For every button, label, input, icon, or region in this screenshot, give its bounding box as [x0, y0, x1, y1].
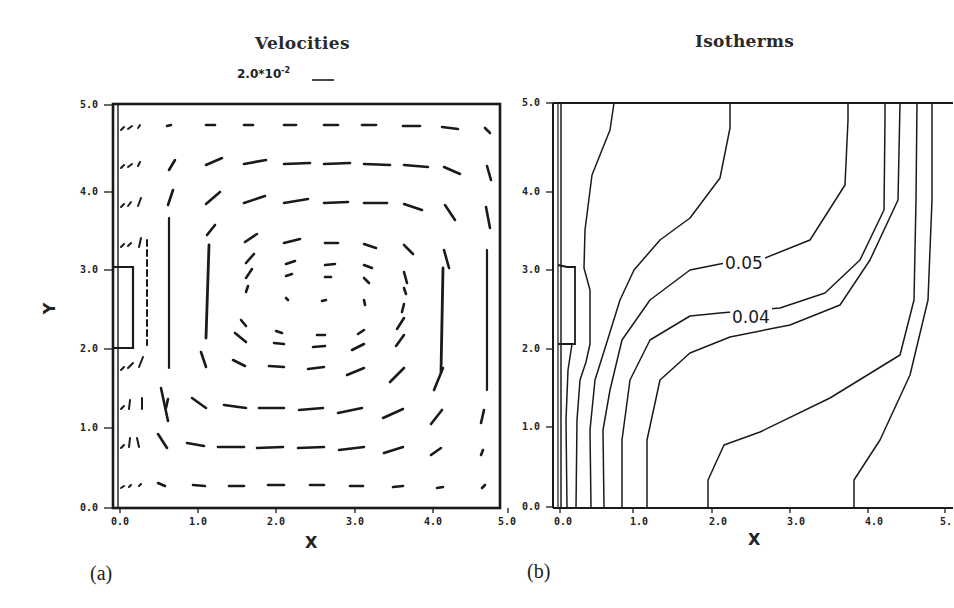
left-ytick-5: 5.0 — [80, 99, 98, 110]
right-ytick-1: 1.0 — [522, 421, 540, 432]
left-ytick-4: 4.0 — [80, 186, 98, 197]
right-ytick-0: 0.0 — [522, 501, 540, 512]
panel-label-b: (b) — [527, 560, 550, 583]
velocity-vectors — [121, 125, 491, 488]
contour-label-005: 0.05 — [723, 253, 765, 273]
left-xtick-1: 1.0 — [189, 516, 207, 527]
isotherm-contours — [561, 103, 940, 508]
contour-label-004: 0.04 — [730, 307, 772, 327]
left-xtick-3: 3.0 — [346, 516, 364, 527]
left-xtick-2: 2.0 — [267, 516, 285, 527]
right-xtick-3: 3.0 — [787, 516, 805, 527]
right-xtick-1: 1.0 — [630, 516, 648, 527]
left-ytick-3: 3.0 — [80, 264, 98, 275]
left-ylabel: Y — [40, 303, 59, 315]
left-xlabel: X — [305, 533, 317, 552]
left-xtick-4: 4.0 — [424, 516, 442, 527]
right-xlabel: X — [748, 530, 760, 549]
right-ytick-2: 2.0 — [522, 343, 540, 354]
right-ytick-3: 3.0 — [522, 264, 540, 275]
left-xtick-0: 0.0 — [111, 516, 129, 527]
right-ytick-4: 4.0 — [522, 186, 540, 197]
plots-canvas — [0, 0, 954, 608]
right-xtick-0: 0.0 — [554, 516, 572, 527]
left-ytick-2: 2.0 — [80, 343, 98, 354]
right-xtick-2: 2.0 — [709, 516, 727, 527]
right-xtick-4: 4.0 — [865, 516, 883, 527]
left-ytick-1: 1.0 — [80, 422, 98, 433]
left-ytick-0: 0.0 — [80, 502, 98, 513]
right-ytick-5: 5.0 — [522, 97, 540, 108]
right-xtick-5: 5. — [940, 516, 952, 527]
left-xtick-5: 5.0 — [498, 516, 516, 527]
panel-label-a: (a) — [90, 562, 112, 585]
